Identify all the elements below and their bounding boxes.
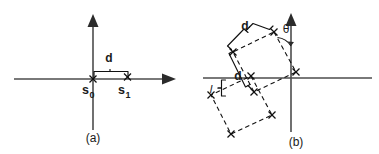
panel-b-label-d-lower: d [234, 69, 241, 83]
panel-b-label-theta: θ [283, 22, 290, 36]
panel-a-label-s1: s 1 [118, 83, 131, 100]
panel-a-y-axis-arrowhead [88, 14, 99, 27]
panel-b-corner-uc [251, 89, 258, 96]
panel-a-label-s0-subscript: 0 [90, 90, 95, 100]
panel-a-label-d: d [105, 51, 112, 65]
panel-b-brace-d-upper [228, 24, 274, 50]
panel-b-corner-lc [228, 131, 235, 138]
panel-a-label-s1-base: s [118, 83, 125, 97]
figure-canvas: d s 0 s 1 (a) [0, 0, 379, 154]
panel-a-label-s0-base: s [82, 83, 89, 97]
panel-a-caption: (a) [86, 131, 101, 145]
panel-b-upper-square-corners [230, 29, 300, 96]
panel-b-corner-ub [293, 69, 300, 76]
panel-b-corner-lb [269, 112, 276, 119]
figure-root: d s 0 s 1 (a) [0, 0, 379, 154]
panel-b-corner-ua [271, 29, 278, 36]
panel-a: d s 0 s 1 (a) [14, 14, 176, 145]
panel-b: d d l θ (b) [203, 13, 372, 149]
panel-b-label-l: l [210, 83, 213, 95]
panel-a-distance-brace [94, 70, 128, 79]
panel-b-label-d-upper: d [241, 19, 248, 33]
panel-a-x-axis-arrowhead [162, 74, 176, 85]
panel-a-label-s1-subscript: 1 [126, 90, 131, 100]
panel-b-brace-l [218, 80, 226, 96]
panel-b-caption: (b) [289, 135, 304, 149]
panel-b-lower-square [211, 76, 272, 134]
